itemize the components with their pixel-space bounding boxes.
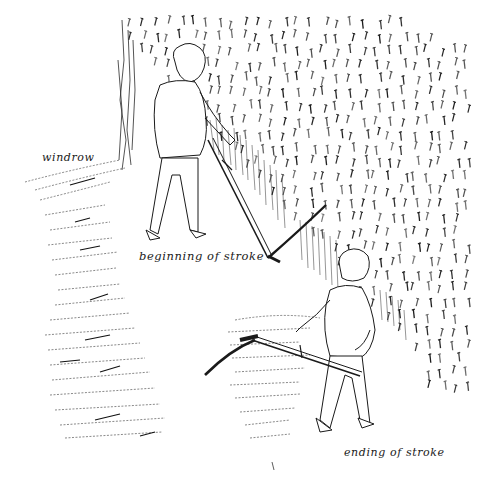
windrow-dark-strokes	[60, 178, 155, 436]
scything-illustration: windrow beginning of stroke ending of st…	[0, 0, 488, 480]
lower-swath	[228, 315, 320, 438]
windrow-swath	[25, 160, 165, 438]
label-ending-of-stroke: ending of stroke	[344, 446, 445, 459]
grass-edge-left	[118, 20, 135, 170]
line-drawing	[0, 0, 488, 480]
scythe-beginning	[208, 138, 326, 262]
label-beginning-of-stroke: beginning of stroke	[139, 249, 264, 263]
figure-beginning	[146, 43, 235, 240]
label-windrow: windrow	[42, 151, 95, 164]
tick-mark	[272, 462, 274, 470]
figure-ending	[296, 249, 375, 432]
